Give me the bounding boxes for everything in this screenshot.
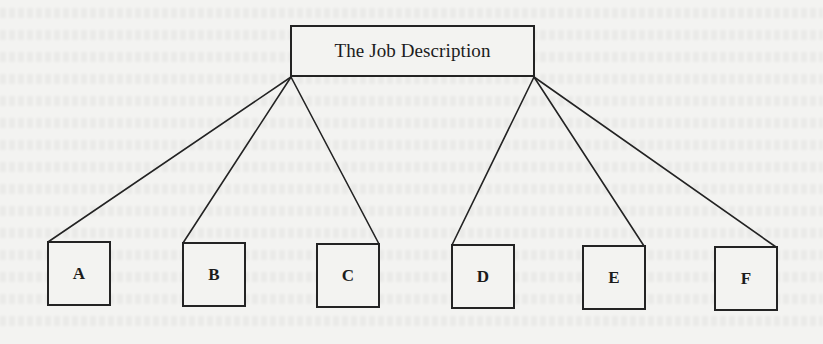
child-node-label: F <box>741 269 751 289</box>
child-node-f: F <box>714 246 778 311</box>
child-node-d: D <box>451 244 515 309</box>
child-node-c: C <box>316 243 380 308</box>
child-node-label: D <box>477 267 489 287</box>
diagram-canvas: The Job Description A B C D E F <box>0 0 823 344</box>
child-node-label: C <box>342 266 354 286</box>
edge-root-d <box>452 77 534 245</box>
edge-root-f <box>534 77 776 247</box>
child-node-b: B <box>182 242 246 307</box>
root-node-label: The Job Description <box>335 40 491 62</box>
child-node-a: A <box>47 241 111 306</box>
root-node-job-description: The Job Description <box>290 25 535 77</box>
child-node-label: B <box>208 265 219 285</box>
child-node-label: A <box>73 264 85 284</box>
edge-root-a <box>48 77 291 242</box>
edge-root-e <box>534 77 644 246</box>
edge-root-c <box>291 77 379 244</box>
child-node-label: E <box>608 268 619 288</box>
child-node-e: E <box>582 245 646 310</box>
edge-root-b <box>183 77 291 243</box>
